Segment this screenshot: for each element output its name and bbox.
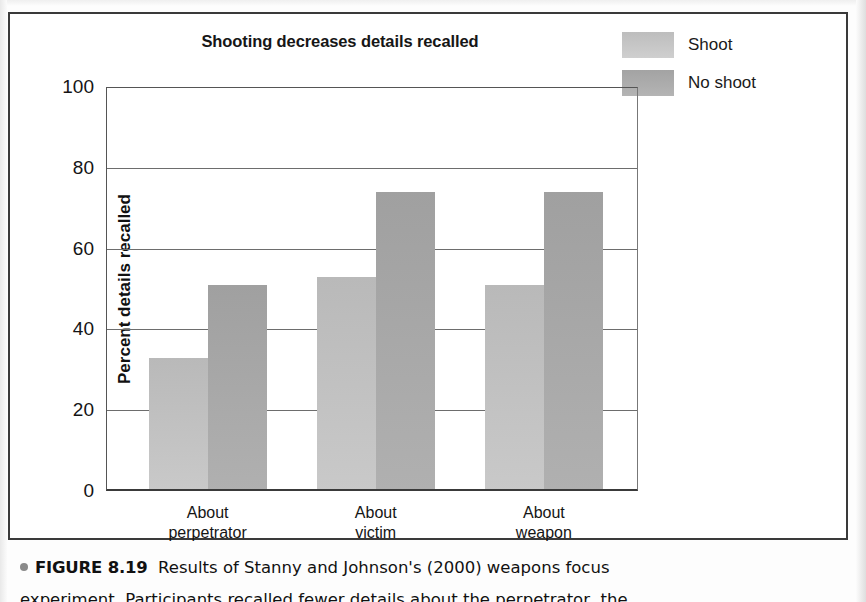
legend-label-shoot: Shoot [688,35,732,55]
y-tick-label-80: 80 [73,157,94,179]
chart-legend: Shoot No shoot [622,32,812,108]
x-category-label-line: About [149,503,267,523]
figure-caption: FIGURE 8.19 Results of Stanny and Johnso… [20,556,840,580]
x-category-label-line: About [485,503,603,523]
caption-figure-number: FIGURE 8.19 [35,558,148,577]
x-category-label-1: Aboutvictim [317,503,435,544]
x-category-label-line: weapon [485,523,603,543]
caption-bullet-icon [20,563,28,571]
y-tick-label-0: 0 [83,480,94,502]
scan-left-edge [0,0,7,602]
legend-label-no-shoot: No shoot [688,73,756,93]
figure-caption-line2: experiment. Participants recalled fewer … [20,590,840,602]
y-tick-label-40: 40 [73,318,94,340]
x-category-label-line: About [317,503,435,523]
x-category-label-line: victim [317,523,435,543]
y-tick-label-60: 60 [73,238,94,260]
chart-title: Shooting decreases details recalled [100,32,580,51]
x-category-label-line: perpetrator [149,523,267,543]
legend-item-shoot: Shoot [622,32,812,58]
y-tick-label-100: 100 [62,76,94,98]
legend-swatch-shoot [622,32,674,58]
x-category-label-2: Aboutweapon [485,503,603,544]
scan-right-edge [856,0,866,602]
plot-frame [106,87,638,491]
legend-item-no-shoot: No shoot [622,70,812,96]
y-tick-label-20: 20 [73,399,94,421]
figure-root: Shooting decreases details recalled Shoo… [0,0,866,602]
caption-text: Results of Stanny and Johnson's (2000) w… [158,558,609,577]
scan-top-edge [0,0,866,6]
chart-panel: Shooting decreases details recalled Shoo… [8,12,848,540]
plot-area: Percent details recalled 020406080100 Ab… [106,87,638,491]
x-category-label-0: Aboutperpetrator [149,503,267,544]
